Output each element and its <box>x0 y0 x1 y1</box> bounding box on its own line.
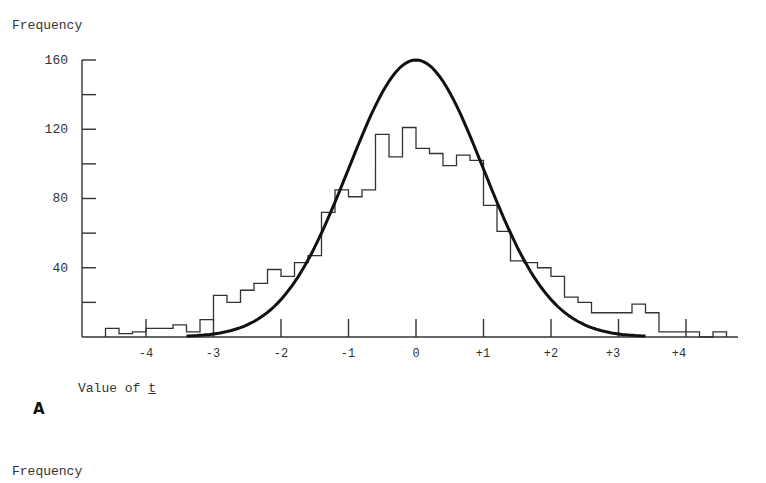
normal-curve <box>187 60 646 336</box>
histogram-steps <box>106 128 727 337</box>
axes <box>82 60 738 337</box>
histogram-chart <box>0 0 766 483</box>
